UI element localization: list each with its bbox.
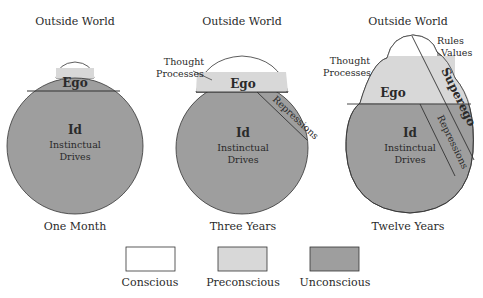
legend-label: Preconscious: [206, 276, 280, 289]
age-caption: One Month: [44, 220, 107, 233]
values-label: Values: [440, 47, 472, 58]
id-sub-label-1: Instinctual: [217, 142, 269, 153]
ego-label: Ego: [380, 86, 406, 100]
legend-label: Conscious: [122, 276, 179, 289]
conscious-swatch: [126, 247, 175, 271]
ego-label: Ego: [230, 77, 256, 91]
id-sub-label-2: Drives: [394, 154, 425, 165]
legend: Conscious Preconscious Unconscious: [122, 247, 371, 289]
panel-twelve-years: Outside World Ego Superego Repressions I…: [323, 15, 479, 233]
thought-label-2: Processes: [156, 68, 204, 79]
id-label: Id: [68, 123, 83, 137]
ego-label: Ego: [62, 76, 88, 90]
thought-label-1: Thought: [330, 55, 370, 66]
outside-world-label: Outside World: [368, 15, 448, 28]
legend-label: Unconscious: [300, 276, 371, 289]
psyche-development-diagram: Outside World Ego Id Instinctual Drives …: [0, 0, 483, 298]
preconscious-swatch: [218, 247, 267, 271]
panel-three-years: Outside World Ego Repressions Id Instinc…: [156, 15, 321, 233]
id-sub-label-1: Instinctual: [49, 139, 101, 150]
outside-world-label: Outside World: [35, 15, 115, 28]
id-label: Id: [403, 126, 418, 140]
age-caption: Twelve Years: [372, 220, 445, 233]
legend-item-preconscious: Preconscious: [206, 247, 280, 289]
legend-item-unconscious: Unconscious: [300, 247, 371, 289]
panel-one-month: Outside World Ego Id Instinctual Drives …: [7, 15, 143, 233]
thought-label-1: Thought: [164, 56, 204, 67]
id-sub-label-2: Drives: [59, 151, 90, 162]
id-sub-label-1: Instinctual: [384, 142, 436, 153]
rules-label: Rules: [437, 35, 464, 46]
legend-item-conscious: Conscious: [122, 247, 179, 289]
conscious-region: [387, 35, 437, 58]
thought-label-2: Processes: [323, 67, 371, 78]
id-sub-label-2: Drives: [227, 154, 258, 165]
age-caption: Three Years: [210, 220, 277, 233]
outside-world-label: Outside World: [202, 15, 282, 28]
id-label: Id: [236, 126, 251, 140]
unconscious-swatch: [310, 247, 359, 271]
